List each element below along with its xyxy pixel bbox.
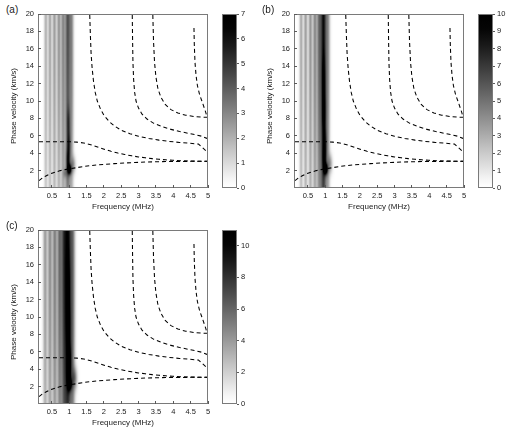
xtick-mark [173, 401, 174, 404]
colorbar-c [222, 230, 237, 404]
colorbar-tick-label: 8 [497, 44, 501, 53]
curve-a1 [346, 15, 463, 152]
ytick-mark [38, 299, 41, 300]
ytick-mark [294, 135, 297, 136]
colorbar-tick-mark [493, 66, 495, 67]
curve-a2 [409, 15, 463, 117]
xtick-mark [155, 401, 156, 404]
xtick-mark [86, 185, 87, 188]
xtick-label: 5 [452, 191, 476, 200]
colorbar-tick-mark [237, 245, 239, 246]
colorbar-tick-label: 6 [497, 79, 501, 88]
colorbar-a [222, 14, 237, 188]
colorbar-tick-mark [493, 48, 495, 49]
colorbar-tick-label: 0 [497, 183, 501, 192]
xtick-mark [121, 401, 122, 404]
colorbar-tick-mark [493, 83, 495, 84]
xtick-mark [190, 401, 191, 404]
colorbar-tick-label: 9 [497, 26, 501, 35]
curve-a1 [90, 231, 207, 368]
curve-s0 [39, 142, 207, 162]
ytick-label: 2 [12, 382, 34, 391]
colorbar-tick-label: 8 [241, 272, 245, 281]
ytick-mark [38, 153, 41, 154]
ytick-label: 4 [268, 148, 290, 157]
colorbar-tick-mark [493, 153, 495, 154]
y-axis-label: Phase velocity (km/s) [265, 68, 274, 144]
colorbar-tick-mark [493, 135, 495, 136]
colorbar-tick-mark [237, 63, 239, 64]
colorbar-tick-label: 0 [241, 399, 245, 408]
ytick-mark [294, 14, 297, 15]
colorbar-tick-label: 6 [241, 304, 245, 313]
xtick-mark [69, 185, 70, 188]
colorbar-tick-mark [237, 340, 239, 341]
xtick-mark [307, 185, 308, 188]
colorbar-tick-mark [493, 14, 495, 15]
colorbar-tick-label: 4 [497, 113, 501, 122]
colorbar-tick-label: 5 [241, 59, 245, 68]
ytick-label: 16 [12, 44, 34, 53]
xtick-mark [394, 185, 395, 188]
colorbar-tick-mark [237, 14, 239, 15]
ytick-mark [38, 351, 41, 352]
ytick-mark [38, 83, 41, 84]
dispersion-curves-b [295, 15, 463, 187]
dispersion-curves-a [39, 15, 207, 187]
colorbar-tick-mark [237, 163, 239, 164]
ytick-label: 4 [12, 364, 34, 373]
xtick-label: 5 [196, 191, 220, 200]
panel-b: (b)24681012141618200.511.522.533.544.55P… [256, 0, 512, 216]
plot-area-c [38, 230, 208, 404]
colorbar-tick-label: 5 [497, 96, 501, 105]
ytick-label: 18 [12, 242, 34, 251]
colorbar-tick-label: 1 [241, 158, 245, 167]
ytick-mark [38, 66, 41, 67]
ytick-mark [38, 247, 41, 248]
curve-s2 [194, 244, 207, 333]
ytick-label: 16 [268, 44, 290, 53]
xtick-mark [155, 185, 156, 188]
xtick-label: 5 [196, 407, 220, 416]
xtick-mark [446, 185, 447, 188]
ytick-mark [294, 101, 297, 102]
curve-a2 [153, 231, 207, 333]
xtick-mark [138, 401, 139, 404]
y-axis-label: Phase velocity (km/s) [9, 284, 18, 360]
colorbar-tick-label: 3 [497, 131, 501, 140]
xtick-mark [86, 401, 87, 404]
ytick-mark [38, 317, 41, 318]
colorbar-tick-mark [493, 170, 495, 171]
xtick-mark [103, 185, 104, 188]
colorbar-tick-label: 4 [241, 336, 245, 345]
plot-area-a [38, 14, 208, 188]
curve-a0 [39, 161, 207, 180]
plot-area-b [294, 14, 464, 188]
curve-s0 [295, 142, 463, 162]
ytick-mark [38, 101, 41, 102]
ytick-mark [294, 31, 297, 32]
ytick-mark [38, 369, 41, 370]
x-axis-label: Frequency (MHz) [294, 202, 464, 211]
xtick-mark [464, 185, 465, 188]
xtick-mark [429, 185, 430, 188]
colorbar-tick-label: 4 [241, 84, 245, 93]
y-axis-label: Phase velocity (km/s) [9, 68, 18, 144]
ytick-label: 2 [12, 166, 34, 175]
ytick-label: 20 [12, 9, 34, 18]
ytick-mark [38, 264, 41, 265]
ytick-mark [38, 31, 41, 32]
curve-s1 [132, 15, 207, 138]
colorbar-tick-label: 2 [241, 133, 245, 142]
colorbar-tick-mark [237, 188, 239, 189]
xtick-mark [325, 185, 326, 188]
xtick-mark [377, 185, 378, 188]
ytick-mark [294, 48, 297, 49]
colorbar-tick-mark [237, 309, 239, 310]
colorbar-tick-label: 7 [497, 61, 501, 70]
colorbar-tick-mark [237, 277, 239, 278]
ytick-label: 4 [12, 148, 34, 157]
curve-a2 [153, 15, 207, 117]
colorbar-b [478, 14, 493, 188]
colorbar-tick-mark [237, 138, 239, 139]
